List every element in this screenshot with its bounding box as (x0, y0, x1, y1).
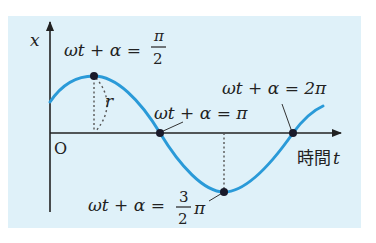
zero-pi-annotation: ωt + α = π (154, 103, 248, 123)
y-axis-label: x (30, 30, 40, 50)
peak-annotation: ωt + α = (64, 40, 141, 60)
time-axis-variable: t (333, 148, 340, 168)
leader-pi (161, 122, 183, 132)
peak-fraction-den: 2 (153, 50, 163, 68)
trough-annotation: ωt + α = (88, 195, 165, 215)
zero-2pi-annotation: ωt + α = 2π (222, 78, 327, 98)
time-axis-label-text: 時間 (297, 148, 331, 168)
zero-point-2pi (289, 129, 297, 137)
peak-point (90, 72, 98, 80)
trough-fraction-num: 3 (179, 188, 189, 206)
leader-2pi (282, 104, 292, 132)
trough-point (220, 188, 228, 196)
trough-pi: π (193, 198, 206, 218)
trough-fraction-den: 2 (178, 210, 188, 228)
zero-point-pi (156, 129, 164, 137)
radius-label: r (105, 91, 114, 111)
origin-label: O (54, 139, 67, 158)
time-axis-label: 時間t (297, 148, 340, 168)
peak-fraction-num: π (153, 27, 165, 45)
sine-wave-diagram: x O r ωt + α = π 2 ωt + α = π ωt + α = 2… (0, 0, 376, 243)
